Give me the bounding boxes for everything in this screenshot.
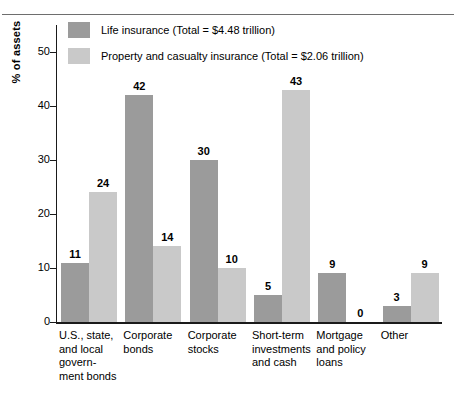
x-axis-line	[56, 322, 442, 324]
bar	[218, 268, 246, 322]
top-divider-rule	[2, 14, 454, 15]
bar	[254, 295, 282, 322]
x-axis-category-label-line: loans	[316, 356, 386, 370]
bar-value-label: 3	[383, 292, 411, 303]
bar	[411, 273, 439, 322]
bar	[282, 90, 310, 322]
bar-value-label: 43	[282, 76, 310, 87]
bar-value-label: 5	[254, 281, 282, 292]
chart-figure: % of assets 01020304050 1142305932414104…	[0, 0, 460, 393]
y-axis-tick-label: 0	[16, 316, 50, 327]
y-axis-tick-label: 40	[16, 100, 50, 111]
bar-value-label: 9	[318, 259, 346, 270]
x-axis-category-label: Mortgageand policyloans	[316, 329, 386, 370]
x-axis-category-label-line: bonds	[123, 343, 193, 357]
x-axis-category-label-line: U.S., state,	[59, 329, 129, 343]
legend-swatch-life-insurance	[68, 22, 90, 38]
chart-legend: Life insurance (Total = $4.48 trillion) …	[68, 20, 364, 72]
x-axis-category-label-line: Corporate	[188, 329, 258, 343]
bar	[61, 263, 89, 322]
bar-value-label: 9	[411, 259, 439, 270]
bar	[125, 95, 153, 322]
bar-value-label: 10	[218, 254, 246, 265]
legend-item-life-insurance: Life insurance (Total = $4.48 trillion)	[68, 20, 364, 40]
bar	[318, 273, 346, 322]
legend-swatch-property-casualty	[68, 48, 90, 64]
x-axis-category-label-line: stocks	[188, 343, 258, 357]
x-axis-category-label-line: Short-term	[252, 329, 322, 343]
bar	[153, 246, 181, 322]
x-axis-category-label-line: and local	[59, 343, 129, 357]
y-axis-tick-label: 30	[16, 154, 50, 165]
x-axis-category-label-line: Corporate	[123, 329, 193, 343]
x-axis-category-label: Corporatebonds	[123, 329, 193, 356]
y-axis-tick-label: 10	[16, 262, 50, 273]
x-axis-category-label-line: govern-	[59, 356, 129, 370]
x-axis-category-label-line: Other	[381, 329, 451, 343]
x-axis-category-label-line: and policy	[316, 343, 386, 357]
x-axis-category-label-line: investments	[252, 343, 322, 357]
bar-value-label: 0	[346, 308, 374, 319]
x-axis-category-label-line: Mortgage	[316, 329, 386, 343]
bar	[383, 306, 411, 322]
bar-value-label: 42	[125, 81, 153, 92]
bar-value-label: 30	[190, 146, 218, 157]
bar-value-label: 14	[153, 232, 181, 243]
legend-label-life-insurance: Life insurance (Total = $4.48 trillion)	[101, 24, 275, 36]
bar-value-label: 24	[89, 178, 117, 189]
x-axis-category-label: U.S., state,and localgovern-ment bonds	[59, 329, 129, 383]
bar-value-label: 11	[61, 249, 89, 260]
x-axis-category-label: Other	[381, 329, 451, 343]
y-axis-tick-label: 20	[16, 208, 50, 219]
x-axis-category-label-line: ment bonds	[59, 370, 129, 384]
y-axis-tick-label: 50	[16, 46, 50, 57]
x-axis-category-label: Short-terminvestmentsand cash	[252, 329, 322, 370]
bar	[190, 160, 218, 322]
legend-label-property-casualty: Property and casualty insurance (Total =…	[101, 50, 364, 62]
legend-item-property-casualty: Property and casualty insurance (Total =…	[68, 46, 364, 66]
x-axis-category-label-line: and cash	[252, 356, 322, 370]
bar	[89, 192, 117, 322]
x-axis-category-label: Corporatestocks	[188, 329, 258, 356]
